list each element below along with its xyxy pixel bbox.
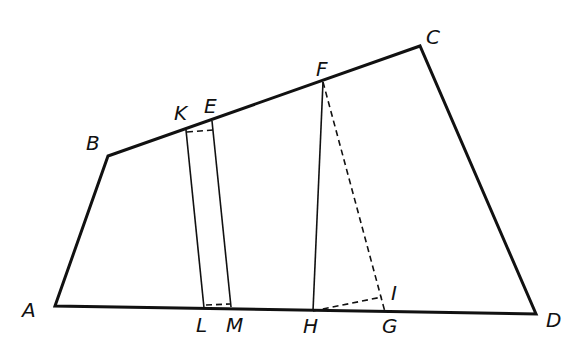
dashed-segment-fg	[323, 82, 385, 312]
label-f: F	[316, 59, 328, 79]
label-l: L	[196, 315, 207, 335]
quadrilateral-outline	[55, 46, 536, 314]
label-h: H	[303, 316, 318, 336]
label-a: A	[22, 300, 36, 320]
label-g: G	[382, 316, 398, 336]
dashed-segment-hi	[313, 297, 382, 311]
quadrilateral-abcd	[55, 46, 536, 314]
label-d: D	[546, 310, 561, 330]
segment-fh	[313, 82, 323, 311]
label-c: C	[426, 27, 440, 47]
dashed-segment-top-strip	[187, 130, 213, 132]
dashed-segment-bottom-strip	[206, 304, 230, 305]
label-i: I	[391, 283, 397, 303]
geometry-diagram	[0, 0, 574, 356]
label-m: M	[226, 315, 243, 335]
segment-em	[212, 121, 231, 307]
segment-kl	[186, 130, 204, 308]
label-b: B	[86, 133, 100, 153]
label-e: E	[204, 96, 217, 116]
label-k: K	[174, 103, 187, 123]
